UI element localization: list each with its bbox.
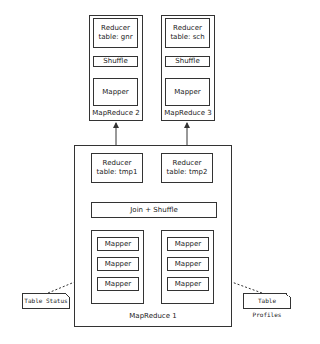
table-profiles-note: Table Profiles — [243, 293, 291, 309]
reducer-label: Reducer — [94, 24, 137, 33]
mapreduce3-box: Reducer table: sch Shuffle Mapper MapRed… — [161, 15, 215, 121]
mapper-label: Mapper — [168, 280, 208, 289]
reducer-label: Reducer — [166, 24, 209, 33]
reducer-sch: Reducer table: sch — [165, 18, 210, 48]
mapper-label: Mapper — [98, 240, 138, 249]
reducer-tmp2: Reducer table: tmp2 — [161, 153, 213, 183]
table-status-note: Table Status — [22, 293, 70, 309]
shuffle-label: Shuffle — [94, 57, 137, 66]
mapper-box: Mapper — [97, 257, 139, 271]
mapreduce1-title: MapReduce 1 — [75, 312, 231, 321]
mapper-box: Mapper — [93, 78, 138, 106]
mapper-box: Mapper — [167, 237, 209, 251]
mapper-group-right: Mapper Mapper Mapper — [161, 230, 214, 304]
mapper-group-left: Mapper Mapper Mapper — [91, 230, 144, 304]
shuffle-box: Shuffle — [93, 56, 138, 67]
mapreduce2-title: MapReduce 2 — [90, 109, 142, 118]
mapper-label: Mapper — [98, 260, 138, 269]
mapper-label: Mapper — [168, 240, 208, 249]
mapper-box: Mapper — [97, 277, 139, 291]
mapper-box: Mapper — [167, 277, 209, 291]
mapreduce3-title: MapReduce 3 — [162, 109, 214, 118]
reducer-label: Reducer — [92, 159, 142, 168]
join-shuffle-label: Join + Shuffle — [92, 206, 216, 215]
reducer-table-label: table: gnr — [94, 33, 137, 42]
shuffle-box: Shuffle — [165, 56, 210, 67]
reducer-label: Reducer — [162, 159, 212, 168]
reducer-gnr: Reducer table: gnr — [93, 18, 138, 48]
mapper-label: Mapper — [166, 88, 209, 97]
mapper-label: Mapper — [168, 260, 208, 269]
reducer-table-label: table: sch — [166, 33, 209, 42]
mapper-label: Mapper — [94, 88, 137, 97]
mapper-label: Mapper — [98, 280, 138, 289]
shuffle-label: Shuffle — [166, 57, 209, 66]
reducer-tmp1: Reducer table: tmp1 — [91, 153, 143, 183]
reducer-table-label: table: tmp2 — [162, 168, 212, 177]
mapper-box: Mapper — [165, 78, 210, 106]
mapper-box: Mapper — [167, 257, 209, 271]
mapreduce1-box: Reducer table: tmp1 Reducer table: tmp2 … — [74, 145, 232, 327]
mapper-box: Mapper — [97, 237, 139, 251]
reducer-table-label: table: tmp1 — [92, 168, 142, 177]
mapreduce2-box: Reducer table: gnr Shuffle Mapper MapRed… — [89, 15, 143, 121]
join-shuffle-box: Join + Shuffle — [91, 202, 217, 218]
